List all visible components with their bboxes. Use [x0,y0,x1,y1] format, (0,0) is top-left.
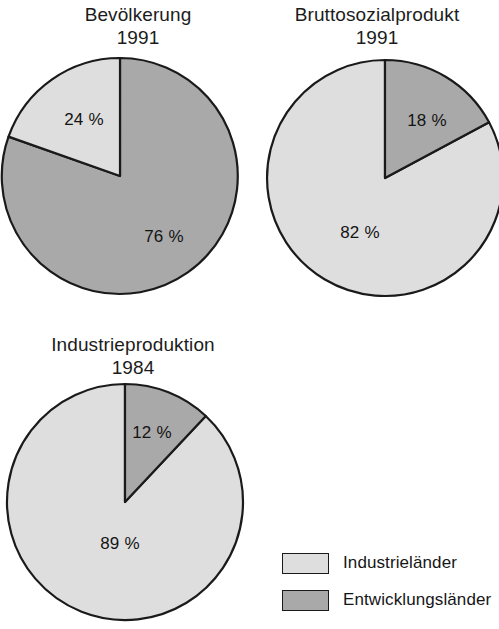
chart-title-industrieproduktion: Industrieproduktion 1984 [0,333,266,379]
legend-row-entwicklungslaender: Entwicklungsländer [282,585,491,615]
legend-swatch-entwicklungslaender [282,590,329,611]
chart-bruttosozialprodukt-1991: Bruttosozialprodukt 1991 18 % 82 % [255,0,499,310]
chart-title-bruttosozialprodukt: Bruttosozialprodukt 1991 [255,3,499,49]
legend-label-industrielaender: Industrieländer [343,553,457,573]
chart-title-bevoelkerung: Bevölkerung 1991 [0,3,276,49]
chart-title-text: Bevölkerung [85,4,192,25]
chart-title-text: Bruttosozialprodukt [295,4,460,25]
pie-label-entwicklungslaender: 18 % [407,111,447,130]
pie-bruttosozialprodukt-1991: 18 % 82 % [255,58,499,306]
legend-row-industrielaender: Industrieländer [282,548,491,578]
pie-label-industrielaender: 89 % [100,534,140,553]
chart-title-year: 1984 [0,356,266,379]
pie-label-industrielaender: 82 % [340,223,380,242]
legend: Industrieländer Entwicklungsländer [282,548,491,615]
legend-swatch-industrielaender [282,553,329,574]
chart-title-text: Industrieproduktion [51,334,215,355]
pie-bevoelkerung-1991: 24 % 76 % [0,56,276,306]
pie-chart-figure: Bevölkerung 1991 24 % 76 % Bruttosozialp… [0,0,499,629]
pie-label-entwicklungslaender: 12 % [132,423,172,442]
chart-title-year: 1991 [255,26,499,49]
chart-industrieproduktion-1984: Industrieproduktion 1984 12 % 89 % [0,330,266,620]
pie-label-entwicklungslaender: 76 % [144,227,184,246]
pie-industrieproduktion-1984: 12 % 89 % [0,382,266,627]
legend-label-entwicklungslaender: Entwicklungsländer [343,590,491,610]
chart-title-year: 1991 [0,26,276,49]
chart-bevoelkerung-1991: Bevölkerung 1991 24 % 76 % [0,0,276,310]
pie-label-industrielaender: 24 % [64,110,104,129]
